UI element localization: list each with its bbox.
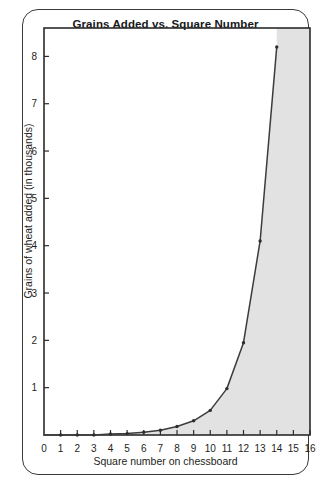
data-point [225,387,228,390]
x-tick-label: 10 [205,443,217,454]
data-point [76,433,79,436]
x-tick-label: 9 [191,443,197,454]
plot-fill-group [44,28,310,435]
y-tick-label: 8 [31,51,37,62]
chart-svg: 012345678910111213141516 12345678 [0,0,331,485]
x-tick-label: 7 [158,443,164,454]
x-tick-label: 5 [124,443,130,454]
data-point [242,341,245,344]
x-tick-label: 8 [174,443,180,454]
x-tick-label: 15 [288,443,300,454]
x-tick-label: 3 [91,443,97,454]
data-point [275,45,278,48]
y-tick-label: 2 [31,335,37,346]
x-tick-label: 13 [255,443,267,454]
x-tick-label: 12 [238,443,250,454]
data-point [192,419,195,422]
x-tick-label: 6 [141,443,147,454]
data-point [142,430,145,433]
x-axis-tick-labels: 012345678910111213141516 [41,443,316,454]
x-tick-label: 14 [271,443,283,454]
data-point [109,432,112,435]
x-tick-label: 4 [108,443,114,454]
x-axis-label: Square number on chessboard [0,455,331,467]
x-tick-label: 11 [222,443,233,454]
data-point [175,425,178,428]
area-fill [44,28,310,435]
x-tick-label: 1 [58,443,64,454]
x-tick-label: 0 [41,443,47,454]
data-point [258,239,261,242]
data-point [59,433,62,436]
y-axis-label: Grains of wheat added (in thousands) [22,91,34,331]
x-tick-label: 16 [304,443,316,454]
data-point [209,409,212,412]
data-point [125,432,128,435]
x-tick-label: 2 [74,443,80,454]
plot-area-wrapper: 012345678910111213141516 12345678 Grains… [0,0,331,485]
y-tick-label: 1 [31,382,37,393]
data-point [159,429,162,432]
data-point [92,433,95,436]
chart-screenshot: Grains Added vs. Square Number 012345678… [0,0,331,485]
